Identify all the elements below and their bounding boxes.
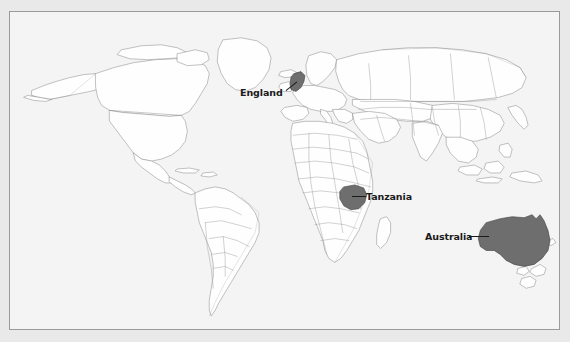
- world-map-figure: England Tanzania Australia: [0, 0, 570, 342]
- england-label: England: [240, 88, 283, 98]
- tanzania-leader-line: [352, 196, 366, 197]
- tanzania-label: Tanzania: [366, 192, 412, 202]
- world-map-graphic: [10, 12, 559, 329]
- australia-label: Australia: [425, 232, 472, 242]
- map-frame: [9, 11, 560, 330]
